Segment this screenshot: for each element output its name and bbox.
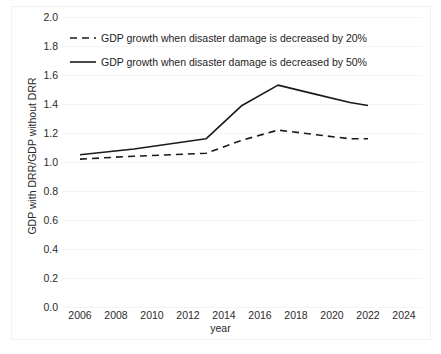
- y-tick-label: 2.0: [24, 12, 58, 22]
- y-tick-label: 1.8: [24, 41, 58, 51]
- x-tick-label: 2024: [392, 309, 415, 321]
- x-axis-title: year: [0, 322, 441, 334]
- x-tick-label: 2012: [176, 309, 199, 321]
- y-tick-label: 0.0: [24, 302, 58, 312]
- legend-item-0: GDP growth when disaster damage is decre…: [70, 26, 390, 50]
- y-tick-label: 1.0: [24, 157, 58, 167]
- x-tick-label: 2014: [212, 309, 235, 321]
- legend-label-1: GDP growth when disaster damage is decre…: [101, 56, 367, 68]
- x-tick-label: 2008: [104, 309, 127, 321]
- y-tick-label: 0.6: [24, 215, 58, 225]
- legend-item-1: GDP growth when disaster damage is decre…: [70, 50, 390, 74]
- x-tick-label: 2020: [320, 309, 343, 321]
- legend-solid-line-icon: [70, 57, 96, 67]
- y-tick-label: 0.8: [24, 186, 58, 196]
- x-tick-label: 2018: [284, 309, 307, 321]
- y-tick-label: 0.2: [24, 273, 58, 283]
- x-tick-label: 2022: [356, 309, 379, 321]
- chart-legend: GDP growth when disaster damage is decre…: [70, 26, 390, 74]
- x-tick-label: 2016: [248, 309, 271, 321]
- x-axis-tick-labels: 2006200820102012201420162018202020222024: [62, 307, 422, 323]
- series-line-1: [80, 85, 368, 155]
- x-tick-label: 2010: [140, 309, 163, 321]
- y-tick-label: 1.2: [24, 128, 58, 138]
- y-axis-tick-labels: 0.00.20.40.60.81.01.21.41.61.82.0: [20, 17, 58, 307]
- series-line-0: [80, 130, 368, 159]
- chart-figure: GDP with DRR/GDP without DRR 0.00.20.40.…: [0, 0, 441, 354]
- x-tick-label: 2006: [68, 309, 91, 321]
- y-tick-label: 1.4: [24, 99, 58, 109]
- y-tick-label: 0.4: [24, 244, 58, 254]
- legend-dashed-line-icon: [70, 33, 96, 43]
- legend-label-0: GDP growth when disaster damage is decre…: [101, 32, 367, 44]
- y-tick-label: 1.6: [24, 70, 58, 80]
